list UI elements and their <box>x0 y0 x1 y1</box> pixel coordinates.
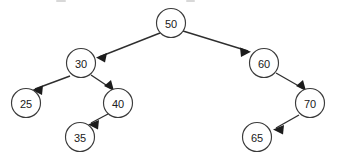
node-label-25: 25 <box>20 98 32 110</box>
tree-node-70[interactable]: 70 <box>296 89 325 118</box>
tree-node-50[interactable]: 50 <box>157 9 186 38</box>
node-label-65: 65 <box>251 132 263 144</box>
node-label-40: 40 <box>112 98 124 110</box>
node-label-30: 30 <box>75 58 87 70</box>
top-edge-artifact <box>56 0 195 2</box>
edge-70-to-65 <box>273 115 299 135</box>
edge-30-to-25 <box>32 76 70 95</box>
edges-layer <box>32 31 306 135</box>
node-label-35: 35 <box>74 132 86 144</box>
edge-50-to-30 <box>96 33 160 63</box>
tree-node-60[interactable]: 60 <box>250 49 279 78</box>
tree-canvas: 50 30 60 25 40 70 <box>0 0 337 164</box>
node-label-50: 50 <box>165 18 177 30</box>
node-label-70: 70 <box>304 98 316 110</box>
node-label-60: 60 <box>258 58 270 70</box>
tree-node-25[interactable]: 25 <box>12 89 41 118</box>
tree-node-65[interactable]: 65 <box>243 123 272 152</box>
tree-node-40[interactable]: 40 <box>104 89 133 118</box>
tree-node-35[interactable]: 35 <box>66 123 95 152</box>
edge-60-to-70 <box>276 73 306 91</box>
binary-tree-diagram: 50 30 60 25 40 70 <box>0 0 337 164</box>
tree-node-30[interactable]: 30 <box>67 49 96 78</box>
edge-30-to-40 <box>91 75 114 91</box>
edge-50-to-60 <box>183 31 251 57</box>
